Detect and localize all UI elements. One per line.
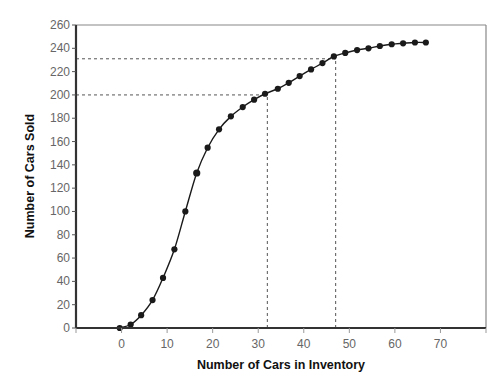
data-point-marker (319, 60, 325, 66)
series-line (120, 42, 426, 328)
x-tick-label: 70 (434, 337, 448, 351)
data-point-marker (365, 45, 371, 51)
data-point-marker (331, 53, 337, 59)
reference-lines (76, 59, 336, 328)
data-point-marker (182, 208, 188, 214)
line-chart: 020406080100120140160180200220240260 010… (0, 0, 503, 389)
y-tick-label: 0 (63, 321, 70, 335)
x-tick-label: 60 (388, 337, 402, 351)
data-series (117, 39, 429, 331)
x-tick-label: 0 (118, 337, 125, 351)
data-point-marker (286, 80, 292, 86)
data-point-marker (412, 39, 418, 45)
data-point-marker (193, 169, 200, 176)
x-axis-title: Number of Cars in Inventory (197, 358, 365, 372)
data-point-marker (128, 321, 134, 327)
data-point-marker (297, 73, 303, 79)
data-point-marker (228, 113, 234, 119)
data-point-marker (138, 312, 144, 318)
data-point-marker (389, 41, 395, 47)
data-point-marker (354, 47, 360, 53)
y-tick-label: 120 (50, 181, 70, 195)
x-axis-ticks: 010203040506070 (76, 328, 486, 351)
y-tick-label: 260 (50, 18, 70, 32)
x-tick-label: 10 (160, 337, 174, 351)
y-axis-ticks: 020406080100120140160180200220240260 (50, 18, 76, 335)
y-tick-label: 160 (50, 135, 70, 149)
data-point-marker (377, 43, 383, 49)
x-tick-label: 40 (297, 337, 311, 351)
y-tick-label: 180 (50, 111, 70, 125)
data-point-marker (308, 66, 314, 72)
data-point-marker (342, 50, 348, 56)
y-tick-label: 100 (50, 204, 70, 218)
data-point-marker (423, 39, 429, 45)
x-tick-label: 50 (343, 337, 357, 351)
y-tick-label: 60 (57, 251, 71, 265)
y-tick-label: 80 (57, 228, 71, 242)
y-tick-label: 220 (50, 65, 70, 79)
data-point-marker (149, 297, 155, 303)
x-tick-label: 20 (206, 337, 220, 351)
data-point-marker (251, 97, 257, 103)
data-point-marker (160, 275, 166, 281)
y-axis-title: Number of Cars Sold (23, 114, 37, 238)
y-tick-label: 40 (57, 274, 71, 288)
chart: 020406080100120140160180200220240260 010… (0, 0, 503, 389)
data-point-marker (262, 91, 268, 97)
data-point-marker (240, 104, 246, 110)
data-point-marker (400, 40, 406, 46)
y-tick-label: 140 (50, 158, 70, 172)
x-tick-label: 30 (252, 337, 266, 351)
data-point-marker (216, 126, 222, 132)
y-tick-label: 20 (57, 298, 71, 312)
y-tick-label: 240 (50, 41, 70, 55)
data-point-marker (171, 246, 177, 252)
y-tick-label: 200 (50, 88, 70, 102)
data-point-marker (275, 86, 281, 92)
data-point-marker (205, 145, 211, 151)
axes (76, 25, 486, 328)
